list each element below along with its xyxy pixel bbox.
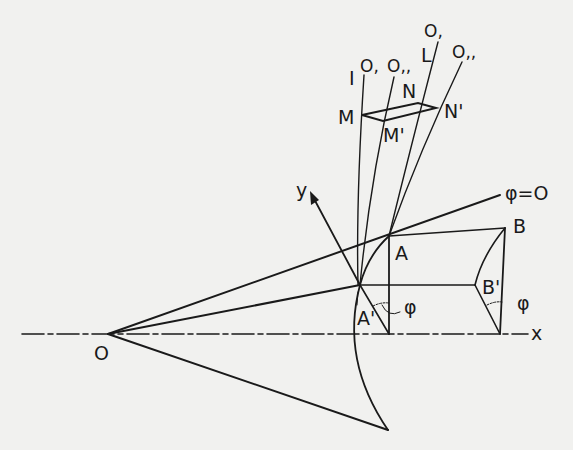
label-y-axis: y	[296, 179, 307, 201]
label-A-prime: A'	[357, 307, 375, 329]
label-N: N	[402, 80, 416, 102]
label-line-L: L	[421, 44, 432, 66]
angle-arc-phi-1	[373, 303, 389, 306]
label-B: B	[513, 215, 526, 237]
label-curve-O1-left: O,	[360, 56, 379, 76]
label-origin: O	[94, 342, 109, 364]
label-B-prime: B'	[482, 276, 500, 298]
label-curve-O2-right: O,,	[452, 42, 476, 62]
angle-arc-phi-2	[487, 302, 502, 305]
ray-phi-zero	[108, 195, 500, 334]
label-phi-zero: φ=O	[505, 182, 548, 204]
label-A: A	[395, 242, 408, 264]
parallelogram-MMNN	[362, 103, 436, 121]
label-phi-angle-2: φ	[517, 292, 530, 314]
label-x-axis: x	[531, 322, 542, 344]
label-M-prime: M'	[383, 124, 405, 146]
label-phi-angle-1: φ	[404, 296, 417, 318]
label-curve-O2-left: O,,	[387, 56, 411, 76]
diagram-canvas: O x y φ=O A A' B B' φ φ M M' N N' I L O,…	[0, 0, 573, 450]
label-line-I: I	[349, 67, 355, 89]
label-M: M	[338, 106, 354, 128]
line-B-vertical	[500, 228, 505, 334]
y-axis	[312, 195, 360, 285]
ray-O-to-bottom	[108, 334, 388, 430]
angle-leader-phi-1	[382, 305, 400, 314]
label-curve-O1-right: O,	[424, 21, 443, 41]
label-N-prime: N'	[444, 100, 463, 122]
ray-O-to-A-prime	[108, 285, 360, 334]
y-axis-arrowhead	[310, 191, 319, 205]
